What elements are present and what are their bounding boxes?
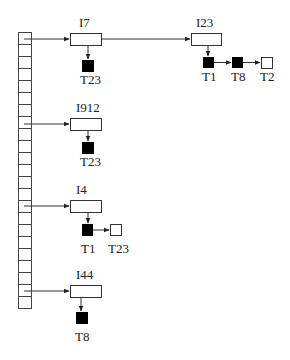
hash-table bbox=[19, 33, 32, 309]
lock-label-t8: T8 bbox=[231, 69, 245, 84]
chain-slot-7: I912 T23 bbox=[24, 100, 102, 169]
lock-waiting-t2 bbox=[262, 58, 273, 69]
lock-held-t1 bbox=[82, 224, 93, 236]
inode-box-i912 bbox=[71, 119, 102, 131]
inode-box-i44 bbox=[71, 286, 102, 298]
lock-label-t23: T23 bbox=[108, 241, 129, 256]
inode-label-i23: I23 bbox=[196, 15, 213, 30]
inode-box-i7 bbox=[71, 34, 102, 46]
lock-table-diagram: I7 T23 I23 T1 T8 T2 I912 T23 I4 T1 bbox=[0, 0, 290, 360]
lock-held-t23 bbox=[82, 60, 94, 72]
lock-label-t23: T23 bbox=[80, 72, 101, 87]
inode-label-i4: I4 bbox=[76, 182, 87, 197]
chain-slot-0: I7 T23 I23 T1 T8 T2 bbox=[24, 15, 274, 87]
inode-label-i7: I7 bbox=[79, 15, 90, 30]
lock-held-t23 bbox=[82, 142, 94, 154]
lock-label-t2: T2 bbox=[260, 69, 274, 84]
chain-slot-14: I4 T1 T23 bbox=[24, 182, 129, 256]
inode-box-i23 bbox=[192, 34, 222, 46]
lock-label-t1: T1 bbox=[81, 241, 95, 256]
lock-held-t8 bbox=[232, 57, 243, 68]
inode-label-i44: I44 bbox=[76, 267, 94, 282]
lock-label-t1: T1 bbox=[202, 69, 216, 84]
inode-label-i912: I912 bbox=[76, 100, 100, 115]
lock-waiting-t23 bbox=[111, 225, 122, 236]
lock-held-t8 bbox=[76, 312, 88, 324]
inode-box-i4 bbox=[71, 201, 102, 213]
lock-held-t1 bbox=[203, 57, 214, 68]
lock-label-t8: T8 bbox=[75, 329, 89, 344]
lock-label-t23: T23 bbox=[80, 154, 101, 169]
chain-slot-21: I44 T8 bbox=[24, 267, 102, 344]
